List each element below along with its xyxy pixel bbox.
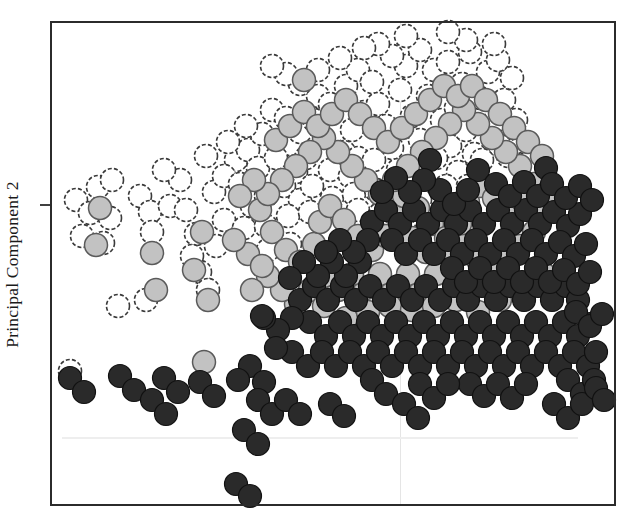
data-point [407, 407, 430, 430]
marker-layer [59, 21, 616, 508]
data-point [155, 403, 178, 426]
data-point [175, 199, 198, 222]
data-point [195, 145, 218, 168]
data-point [167, 381, 190, 404]
data-point [581, 189, 604, 212]
data-point [575, 233, 598, 256]
data-point [579, 261, 602, 284]
data-point [261, 55, 284, 78]
data-point [217, 131, 240, 154]
data-point [501, 67, 524, 90]
data-point [301, 175, 324, 198]
data-point [419, 149, 442, 172]
data-point [223, 229, 246, 252]
data-point [333, 405, 356, 428]
scatter-plot-figure: Principal Component 2 [0, 0, 636, 529]
data-point [227, 369, 250, 392]
data-point [515, 373, 538, 396]
data-point [191, 221, 214, 244]
data-point [437, 373, 460, 396]
data-point [293, 69, 316, 92]
data-point [585, 341, 608, 364]
data-point [247, 433, 270, 456]
data-point [251, 305, 274, 328]
data-point [229, 185, 252, 208]
data-point [193, 351, 216, 374]
data-point [265, 337, 288, 360]
plot-canvas [0, 0, 636, 529]
data-point [141, 242, 164, 265]
data-point [235, 115, 258, 138]
data-point [197, 289, 220, 312]
data-point [85, 234, 108, 257]
data-point [395, 25, 418, 48]
data-point [437, 51, 460, 74]
data-point [483, 33, 506, 56]
data-point [141, 221, 164, 244]
data-point [101, 169, 124, 192]
data-point [107, 295, 130, 318]
data-point [371, 181, 394, 204]
data-point [361, 71, 384, 94]
data-point [145, 279, 168, 302]
data-point [73, 381, 96, 404]
data-point [153, 159, 176, 182]
data-point [457, 179, 480, 202]
data-point [593, 389, 616, 412]
data-point [353, 37, 376, 60]
data-point [591, 303, 614, 326]
data-point [279, 267, 302, 290]
data-point [251, 255, 274, 278]
data-point [315, 241, 338, 264]
data-point [289, 403, 312, 426]
data-point [241, 279, 264, 302]
data-point [437, 21, 460, 44]
data-point [183, 259, 206, 282]
data-point [89, 197, 112, 220]
data-point [329, 47, 352, 70]
data-point [203, 385, 226, 408]
data-point [389, 79, 412, 102]
